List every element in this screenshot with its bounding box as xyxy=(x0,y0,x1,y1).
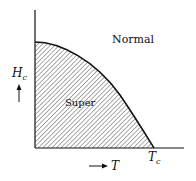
y-arrow-icon xyxy=(17,84,22,102)
x-arrow-icon xyxy=(89,164,108,169)
tc-symbol: T xyxy=(148,150,156,164)
y-axis-label: Hc xyxy=(12,66,27,82)
normal-region-label: Normal xyxy=(112,33,154,46)
tc-subscript: c xyxy=(156,157,160,166)
y-axis-subscript: c xyxy=(22,73,26,82)
y-axis-symbol: H xyxy=(12,66,22,80)
super-region-label: Super xyxy=(65,97,95,108)
tc-tick-label: Tc xyxy=(148,150,161,166)
super-region xyxy=(35,42,154,148)
phase-diagram xyxy=(0,0,196,181)
x-axis-label: T xyxy=(111,159,119,173)
